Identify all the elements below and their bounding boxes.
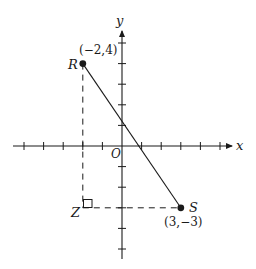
point-r-dot (79, 60, 86, 67)
point-s: S (3,−3) (164, 200, 203, 229)
origin-label: O (111, 147, 121, 161)
point-r-coords: (−2,4) (79, 43, 118, 57)
point-z: Z (70, 205, 81, 220)
x-axis-label: x (236, 138, 244, 153)
point-s-label: S (189, 200, 198, 215)
right-angle-marker (84, 200, 93, 208)
point-s-dot (177, 204, 184, 211)
y-axis-label: y (115, 13, 124, 28)
point-s-coords: (3,−3) (164, 215, 203, 229)
point-z-label: Z (70, 205, 81, 220)
point-r-label: R (67, 57, 78, 72)
coordinate-plane-figure: x y O (0, 0, 256, 269)
point-r: R (−2,4) (67, 43, 118, 72)
segment-rs (83, 64, 181, 208)
x-axis: x (13, 138, 244, 153)
